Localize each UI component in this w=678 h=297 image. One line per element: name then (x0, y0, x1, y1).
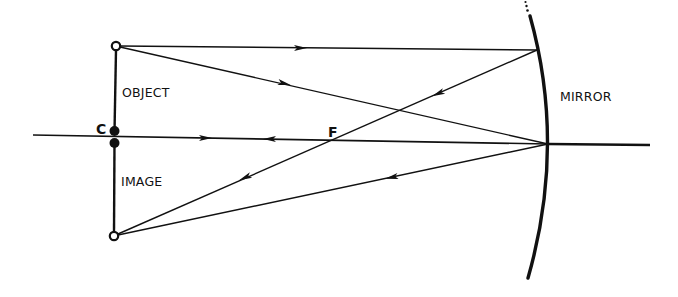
object-label: OBJECT (122, 87, 170, 100)
parallel-ray-incident (120, 45, 537, 51)
ray-arrow-left-icon (238, 172, 252, 183)
image-arrow (114, 142, 115, 232)
mirror-dot (524, 1, 526, 3)
vertex-ray-reflected (118, 144, 548, 235)
mirror-dot (525, 5, 527, 7)
object-arrow (115, 50, 117, 132)
center-of-curvature-label: C (96, 122, 106, 136)
ray-arrow-left-icon (431, 88, 445, 99)
focal-point-label: F (328, 125, 338, 139)
object-tip-circle (112, 42, 120, 50)
center-of-curvature-dot (110, 138, 120, 148)
ray-diagram (0, 0, 678, 297)
center-of-curvature-dot (110, 126, 120, 136)
mirror-dot (526, 9, 529, 12)
image-label: IMAGE (121, 176, 162, 189)
mirror-label: MIRROR (560, 91, 612, 104)
image-tip-circle (110, 232, 118, 240)
